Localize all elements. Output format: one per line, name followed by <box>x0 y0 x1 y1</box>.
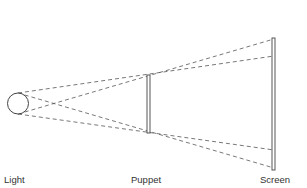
shadow-diagram <box>0 0 307 188</box>
light-source-circle <box>8 93 29 114</box>
label-puppet: Puppet <box>131 175 161 185</box>
puppet-bar <box>147 75 150 133</box>
screen-bar <box>272 38 275 170</box>
ray-bottom-outer <box>18 93 274 168</box>
ray-top-outer <box>18 39 274 114</box>
ray-top-inner <box>18 56 274 93</box>
label-screen: Screen <box>260 175 290 185</box>
label-light: Light <box>4 175 25 185</box>
light-rays <box>18 39 274 168</box>
ray-bottom-inner <box>18 114 274 150</box>
